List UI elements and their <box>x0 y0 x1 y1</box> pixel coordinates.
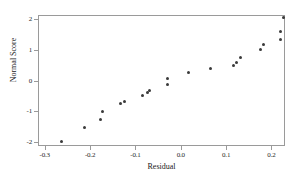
plot-area <box>38 15 285 146</box>
y-axis-tick-label: 0 <box>18 77 32 85</box>
y-axis-tick-label: 1 <box>18 46 32 54</box>
y-axis-tick-label: 2 <box>18 15 32 23</box>
y-axis-tick <box>34 19 38 20</box>
y-axis-tick <box>34 111 38 112</box>
x-axis-tick <box>271 146 272 150</box>
y-axis-tick <box>34 81 38 82</box>
x-axis-tick-label: 0.1 <box>211 151 241 159</box>
y-axis-tick <box>34 50 38 51</box>
y-axis-tick-label: -2 <box>18 138 32 146</box>
x-axis-tick <box>135 146 136 150</box>
x-axis-tick <box>90 146 91 150</box>
x-axis-tick <box>181 146 182 150</box>
y-axis-tick <box>34 142 38 143</box>
normal-probability-plot: -0.3-0.2-0.10.00.10.2-2-1012 Residual No… <box>0 0 293 176</box>
x-axis-tick-label: 0.2 <box>256 151 286 159</box>
x-axis-tick-label: -0.3 <box>30 151 60 159</box>
x-axis-tick-label: -0.1 <box>120 151 150 159</box>
x-axis-tick-label: 0.0 <box>166 151 196 159</box>
x-axis-tick <box>45 146 46 150</box>
y-axis-tick-label: -1 <box>18 107 32 115</box>
x-axis-tick-label: -0.2 <box>75 151 105 159</box>
x-axis-label: Residual <box>38 162 285 172</box>
x-axis-tick <box>226 146 227 150</box>
y-axis-label: Normal Score <box>9 20 19 100</box>
